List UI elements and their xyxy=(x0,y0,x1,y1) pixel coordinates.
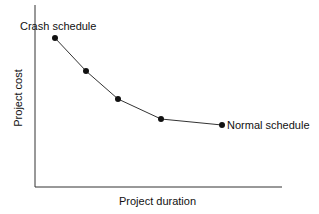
cost-curve xyxy=(55,38,222,125)
data-points xyxy=(52,35,225,128)
x-axis-label: Project duration xyxy=(119,195,196,207)
data-point xyxy=(52,35,58,41)
chart-canvas xyxy=(0,0,319,214)
crash-schedule-label: Crash schedule xyxy=(20,20,96,32)
data-point xyxy=(158,116,164,122)
data-point xyxy=(83,68,89,74)
normal-schedule-label: Normal schedule xyxy=(227,119,310,131)
data-point xyxy=(219,122,225,128)
y-axis-label: Project cost xyxy=(12,58,24,138)
data-point xyxy=(115,96,121,102)
